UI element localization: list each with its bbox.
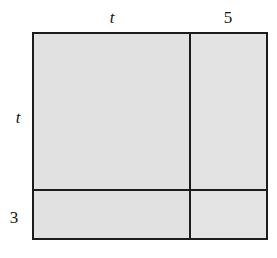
sub-rectangle-top-right bbox=[191, 34, 266, 189]
dimension-label-top-right: 5 bbox=[220, 9, 236, 26]
sub-rectangle-bottom-right bbox=[191, 191, 266, 238]
sub-rectangle-bottom-left bbox=[34, 191, 189, 238]
figure-root: t 5 t 3 bbox=[0, 0, 277, 258]
horizontal-divider-line bbox=[34, 189, 266, 191]
composite-rectangle bbox=[32, 32, 268, 240]
sub-rectangle-top-left bbox=[34, 34, 189, 189]
dimension-label-top-left: t bbox=[104, 9, 120, 26]
dimension-label-left-upper: t bbox=[10, 109, 26, 126]
vertical-divider-line bbox=[189, 34, 191, 238]
dimension-label-left-lower: 3 bbox=[6, 209, 22, 226]
